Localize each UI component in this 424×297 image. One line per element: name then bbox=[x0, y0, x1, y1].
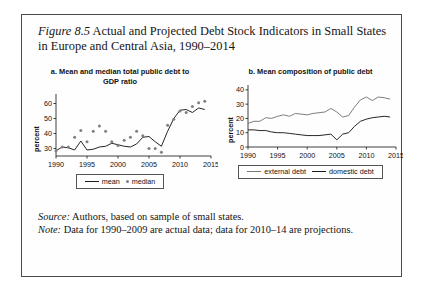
panel-b-plot: percent 01020304019901995200020052010201… bbox=[218, 81, 403, 163]
svg-text:2010: 2010 bbox=[358, 151, 374, 160]
panel-a-plot: percent 30405060199019952000200520102015 bbox=[22, 90, 218, 172]
panel-b: b. Mean composition of public debt perce… bbox=[218, 67, 403, 189]
figure-notes: Source: Authors, based on sample of smal… bbox=[38, 211, 390, 236]
panel-a: a. Mean and median total public debt to … bbox=[22, 67, 218, 189]
svg-text:2000: 2000 bbox=[299, 151, 315, 160]
source-label: Source: bbox=[38, 211, 70, 222]
legend-label-external-debt: external debt bbox=[264, 167, 306, 176]
svg-text:40: 40 bbox=[44, 129, 52, 138]
line-swatch-black-icon bbox=[312, 171, 326, 172]
legend-label-median: median bbox=[132, 177, 156, 186]
svg-text:30: 30 bbox=[44, 144, 52, 153]
chart-panels: a. Mean and median total public debt to … bbox=[22, 67, 403, 189]
svg-text:2005: 2005 bbox=[329, 151, 345, 160]
figure-number: Figure 8.5 bbox=[38, 24, 90, 38]
figure-container: Figure 8.5 Actual and Projected Debt Sto… bbox=[21, 14, 402, 277]
svg-text:20: 20 bbox=[236, 114, 244, 123]
line-swatch-gray-icon bbox=[247, 171, 261, 172]
svg-text:2015: 2015 bbox=[388, 151, 403, 160]
svg-text:1995: 1995 bbox=[270, 151, 286, 160]
line-swatch-icon bbox=[85, 181, 99, 182]
svg-text:30: 30 bbox=[236, 99, 244, 108]
legend-item-domestic-debt: domestic debt bbox=[312, 167, 374, 176]
panel-a-legend: mean median bbox=[22, 174, 218, 189]
svg-text:2000: 2000 bbox=[110, 160, 126, 169]
panel-a-ylabel: percent bbox=[32, 126, 41, 152]
svg-text:1990: 1990 bbox=[240, 151, 256, 160]
panel-b-ylabel: percent bbox=[226, 117, 235, 143]
data-note: Note: Data for 1990–2009 are actual data… bbox=[38, 224, 390, 237]
legend-item-mean: mean bbox=[85, 177, 120, 186]
panel-b-legend: external debt domestic debt bbox=[218, 165, 403, 180]
svg-text:2005: 2005 bbox=[141, 160, 157, 169]
legend-label-domestic-debt: domestic debt bbox=[329, 167, 374, 176]
legend-item-median: median bbox=[126, 177, 156, 186]
dot-swatch-icon bbox=[126, 180, 129, 183]
svg-text:40: 40 bbox=[236, 85, 244, 94]
source-note: Source: Authors, based on sample of smal… bbox=[38, 211, 390, 224]
note-label: Note: bbox=[38, 224, 61, 235]
svg-text:2015: 2015 bbox=[203, 160, 218, 169]
legend-item-external-debt: external debt bbox=[247, 167, 306, 176]
svg-text:50: 50 bbox=[44, 114, 52, 123]
svg-text:1990: 1990 bbox=[48, 160, 64, 169]
svg-text:10: 10 bbox=[236, 128, 244, 137]
svg-text:60: 60 bbox=[44, 99, 52, 108]
svg-text:1995: 1995 bbox=[79, 160, 95, 169]
panel-a-title: a. Mean and median total public debt to … bbox=[45, 67, 195, 86]
source-text: Authors, based on sample of small states… bbox=[70, 211, 244, 222]
panel-a-svg: 30405060199019952000200520102015 bbox=[22, 90, 218, 172]
figure-title-text: Actual and Projected Debt Stock Indicato… bbox=[38, 24, 386, 53]
svg-text:2010: 2010 bbox=[172, 160, 188, 169]
legend-label-mean: mean bbox=[102, 177, 120, 186]
figure-title: Figure 8.5 Actual and Projected Debt Sto… bbox=[38, 24, 388, 53]
note-text: Data for 1990–2009 are actual data; data… bbox=[61, 224, 353, 235]
panel-b-title: b. Mean composition of public debt bbox=[241, 67, 381, 77]
panel-b-svg: 010203040199019952000200520102015 bbox=[218, 81, 403, 163]
